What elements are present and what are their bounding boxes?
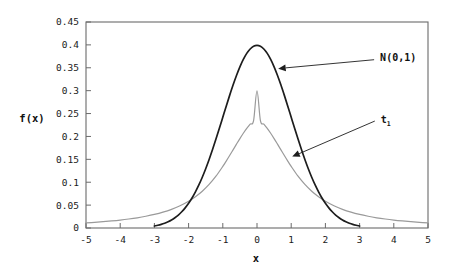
y-tick-label: 0.3 [62,85,79,96]
annotation-label-normal: N(0,1) [380,52,416,63]
y-tick-label: 0.2 [62,131,79,142]
x-tick-label: 0 [254,234,260,245]
x-tick-label: -1 [217,234,229,245]
y-axis-title: f(x) [19,112,44,124]
distribution-plot: 00.050.10.150.20.250.30.350.40.45 -5-4-3… [0,0,455,275]
y-tick-label: 0.4 [62,39,79,50]
chart-figure: 00.050.10.150.20.250.30.350.40.45 -5-4-3… [0,0,455,275]
x-tick-label: 4 [391,234,397,245]
y-tick-label: 0.45 [56,16,79,27]
x-tick-label: -3 [149,234,160,245]
y-tick-label: 0.35 [56,62,79,73]
x-tick-label: 1 [288,234,294,245]
x-tick-label: 2 [323,234,329,245]
y-tick-label: 0 [73,222,79,233]
x-axis-title: x [253,252,260,264]
y-tick-label: 0.15 [56,154,79,165]
x-tick-label: 5 [425,234,431,245]
x-tick-label: -4 [114,234,126,245]
annotation-subscript: 1 [387,120,391,128]
y-tick-label: 0.1 [62,177,79,188]
x-tick-label: -5 [80,234,91,245]
x-tick-label: 3 [357,234,363,245]
x-tick-label: -2 [183,234,194,245]
y-tick-label: 0.05 [56,200,79,211]
y-tick-label: 0.25 [56,108,79,119]
